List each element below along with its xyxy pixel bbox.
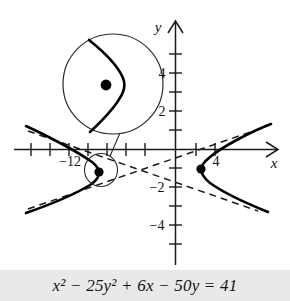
y-axis [168, 21, 183, 265]
magnifier-leader-line [110, 133, 120, 156]
x-axis-label: x [270, 155, 278, 171]
y-tick-label-neg2: −2 [150, 180, 165, 195]
left-vertex-dot [94, 167, 103, 176]
y-tick-label-4: 4 [159, 66, 166, 81]
caption-band: x² − 25y² + 6x − 50y = 41 [0, 270, 290, 301]
vertex-markers [94, 164, 205, 176]
x-axis [14, 142, 278, 157]
hyperbola-plot-svg: y x −12 4 4 2 −2 −4 [0, 0, 290, 270]
x-tick-label-4: 4 [213, 154, 220, 169]
plot-area: y x −12 4 4 2 −2 −4 [0, 0, 290, 270]
magnifier-lens-circle [63, 34, 163, 134]
y-axis-label: y [153, 19, 162, 35]
equation-caption: x² − 25y² + 6x − 50y = 41 [53, 276, 238, 296]
hyperbola-figure: y x −12 4 4 2 −2 −4 x² − 25y² + 6x − 50y… [0, 0, 290, 301]
y-tick-label-2: 2 [159, 104, 166, 119]
right-vertex-dot [196, 164, 205, 173]
x-tick-label-neg12: −12 [59, 154, 81, 169]
y-tick-label-neg4: −4 [150, 218, 165, 233]
magnified-vertex-dot [101, 80, 112, 91]
